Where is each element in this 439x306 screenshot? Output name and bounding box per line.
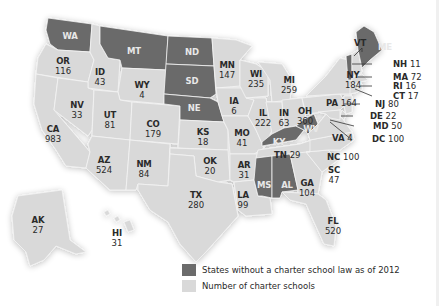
label-ca: CA983 [45,124,61,144]
label-ms: MS [257,180,271,190]
label-la: LA99 [237,190,249,210]
label-fl: FL520 [325,216,341,236]
label-ky: KY [273,137,285,147]
label-va: VA 4 [332,133,353,143]
label-nh: NH 11 [393,59,421,69]
label-mn: MN147 [219,60,235,80]
legend-swatch-dark [182,264,196,276]
label-tn: TN 29 [274,150,300,160]
label-nc: NC 100 [327,152,359,162]
legend-item-no-law: States without a charter school law as o… [182,263,400,276]
label-ny: NY184 [345,70,361,90]
label-sd: SD [186,76,199,86]
label-ia: IA6 [229,96,238,116]
label-az: AZ524 [96,155,112,175]
label-id: ID43 [95,67,106,87]
label-ak: AK27 [32,215,45,235]
label-me: ME [378,42,392,52]
label-pa: PA 164 [326,98,357,108]
label-ks: KS18 [197,127,209,147]
label-or: OR116 [55,56,71,76]
label-ut: UT81 [104,110,116,130]
label-al: AL [281,180,293,190]
label-nv: NV33 [70,100,83,120]
legend: States without a charter school law as o… [182,263,400,295]
label-wy: WY4 [134,80,149,100]
state-ms [254,156,272,198]
label-in: IN63 [279,108,290,128]
label-sc: SC47 [328,165,340,185]
label-md: MD 50 [373,121,402,131]
legend-swatch-light [182,280,196,292]
label-nj: NJ 80 [375,99,399,109]
label-wi: WI235 [248,69,264,89]
label-mt: MT [127,46,141,56]
label-ok: OK20 [203,156,216,176]
label-ar: AR31 [238,160,251,180]
state-ak [12,190,86,266]
label-il: IL222 [255,108,271,128]
legend-item-count: Number of charter schools [182,279,400,292]
label-hi: HI31 [112,228,123,248]
label-ga: GA104 [299,178,315,198]
label-nm: NM84 [136,159,151,179]
label-ri: RI 16 [393,81,416,91]
label-oh: OH360 [297,106,313,126]
label-wa: WA [62,31,77,41]
label-co: CO179 [145,119,161,139]
label-tx: TX280 [188,190,204,210]
label-de: DE 22 [370,111,396,121]
label-dc: DC 100 [372,134,404,144]
label-nd: ND [185,47,199,57]
label-vt: VT [354,38,366,48]
label-ne: NE [188,103,201,113]
us-map [0,0,439,306]
label-mi: MI259 [281,75,297,95]
label-mo: MO41 [234,128,249,148]
